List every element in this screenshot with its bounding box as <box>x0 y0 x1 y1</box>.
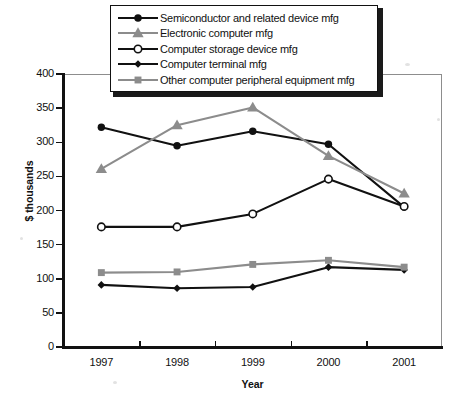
data-point-marker <box>325 141 332 148</box>
series-3 <box>98 175 408 230</box>
data-point-marker <box>249 261 256 268</box>
filled-circle-marker <box>116 11 160 25</box>
data-point-marker <box>98 223 105 230</box>
legend-item-label: Other computer peripheral equipment mfg <box>160 74 354 86</box>
series-line <box>101 107 404 193</box>
data-point-marker <box>398 188 409 198</box>
data-point-marker <box>174 268 181 275</box>
legend-item-label: Semiconductor and related device mfg <box>160 12 339 24</box>
legend-item-label: Electronic computer mfg <box>160 27 273 39</box>
data-point-marker <box>401 264 408 271</box>
legend-item-label: Computer terminal mfg <box>160 58 267 70</box>
data-point-marker <box>96 163 107 173</box>
legend-item-2[interactable]: Electronic computer mfg <box>116 26 371 42</box>
data-point-marker <box>325 263 333 271</box>
series-1 <box>98 124 408 211</box>
legend-item-label: Computer storage device mfg <box>160 43 298 55</box>
data-point-marker <box>173 223 180 230</box>
legend-item-1[interactable]: Semiconductor and related device mfg <box>116 10 371 26</box>
data-point-marker <box>249 283 257 291</box>
data-point-marker <box>98 269 105 276</box>
series-5 <box>98 257 408 276</box>
line-chart-figure: 050100150200250300350400 $ thousands 199… <box>0 0 458 403</box>
data-point-marker <box>249 128 256 135</box>
series-line <box>101 179 404 227</box>
data-point-marker <box>98 124 105 131</box>
legend-item-3[interactable]: Computer storage device mfg <box>116 41 371 57</box>
data-point-marker <box>173 285 181 293</box>
data-point-marker <box>323 150 334 160</box>
data-point-marker <box>325 257 332 264</box>
chart-legend: Semiconductor and related device mfgElec… <box>110 5 378 92</box>
data-point-marker <box>400 203 407 210</box>
series-2 <box>96 102 410 198</box>
filled-square-marker <box>116 73 160 87</box>
legend-item-5[interactable]: Other computer peripheral equipment mfg <box>116 72 371 88</box>
legend-item-4[interactable]: Computer terminal mfg <box>116 57 371 73</box>
data-point-marker <box>325 175 332 182</box>
series-line <box>101 127 404 207</box>
filled-triangle-marker <box>116 26 160 40</box>
data-point-marker <box>98 281 106 289</box>
data-point-marker <box>173 142 180 149</box>
filled-diamond-marker <box>116 57 160 71</box>
data-point-marker <box>249 210 256 217</box>
open-circle-marker <box>116 42 160 56</box>
data-point-marker <box>247 102 258 112</box>
